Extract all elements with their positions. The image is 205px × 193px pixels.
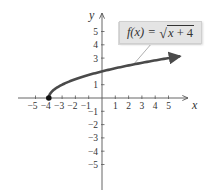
x-tick-label: 1: [113, 101, 118, 111]
y-tick-label: −4: [88, 147, 98, 157]
start-point-marker: [46, 95, 52, 101]
y-tick-label: −3: [88, 133, 98, 143]
y-tick-label: 5: [93, 27, 98, 37]
x-tick-label: 2: [126, 101, 131, 111]
y-tick-label: 1: [93, 80, 98, 90]
y-tick-label: −5: [88, 160, 98, 170]
x-tick-label: −3: [54, 101, 64, 111]
y-tick-label: −2: [88, 120, 98, 130]
x-axis-label: x: [191, 98, 198, 112]
function-name: f(x): [127, 25, 144, 40]
y-tick-label: 4: [93, 40, 98, 50]
y-tick-label: −1: [88, 107, 98, 117]
x-tick-label: −2: [67, 101, 77, 111]
x-tick-label: 5: [166, 101, 171, 111]
square-root-expression: √ x + 4: [159, 25, 194, 41]
equals-sign: =: [148, 25, 155, 40]
function-curve: [49, 56, 179, 98]
radical-sign-icon: √: [159, 27, 167, 41]
x-tick-label: −4: [41, 101, 51, 111]
radicand: x + 4: [167, 25, 194, 41]
x-tick-label: −5: [27, 101, 37, 111]
x-tick-label: 4: [153, 101, 158, 111]
radicand-constant: + 4: [174, 26, 194, 40]
function-label-box: f(x) = √ x + 4: [119, 21, 202, 44]
y-axis-label: y: [88, 8, 95, 22]
y-tick-label: 3: [93, 54, 98, 64]
x-tick-label: 3: [140, 101, 145, 111]
